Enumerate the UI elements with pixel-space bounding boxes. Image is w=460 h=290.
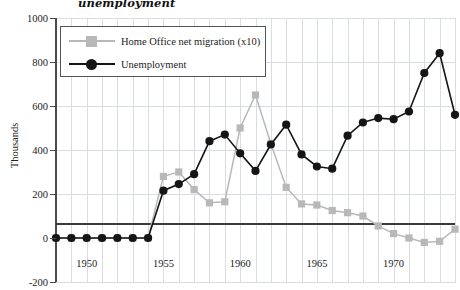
y-axis-tick-label: 1000 (27, 13, 48, 24)
square-marker-icon (86, 36, 97, 47)
data-point-circle (420, 69, 428, 77)
data-point-circle (405, 107, 413, 115)
data-point-circle (313, 162, 321, 170)
data-point-circle (190, 170, 198, 178)
data-point-circle (328, 165, 336, 173)
circle-marker-icon (86, 59, 97, 70)
data-point-circle (144, 234, 152, 242)
data-point-square (313, 201, 320, 208)
data-point-square (221, 198, 228, 205)
y-axis-tick-label: 600 (32, 101, 48, 112)
data-point-circle (221, 131, 229, 139)
y-axis-tick-label: 400 (32, 145, 48, 156)
data-point-circle (374, 114, 382, 122)
data-point-square (375, 222, 382, 229)
legend-label-unemployment: Unemployment (121, 59, 186, 70)
y-axis-tick-mark (50, 106, 56, 107)
data-point-circle (236, 149, 244, 157)
data-point-square (237, 124, 244, 131)
data-point-circle (359, 118, 367, 126)
data-point-square (451, 226, 458, 233)
legend-label-migration: Home Office net migration (x10) (121, 36, 260, 47)
chart-container: unemployment Thousands Home Office net m… (0, 0, 460, 290)
y-axis-tick-label: 800 (32, 57, 48, 68)
x-axis-tick-label: 1955 (153, 258, 174, 269)
data-point-circle (129, 234, 137, 242)
data-point-square (206, 199, 213, 206)
data-point-circle (98, 234, 106, 242)
data-point-square (329, 207, 336, 214)
data-point-square (405, 234, 412, 241)
data-point-circle (205, 137, 213, 145)
data-point-square (298, 200, 305, 207)
legend-item-unemployment: Unemployment (61, 53, 265, 75)
y-axis-tick-mark (50, 282, 56, 283)
data-point-square (160, 173, 167, 180)
data-point-square (436, 238, 443, 245)
y-axis-tick-mark (50, 194, 56, 195)
data-point-circle (297, 150, 305, 158)
data-point-square (252, 91, 259, 98)
legend-swatch-unemployment (69, 57, 115, 71)
y-axis-tick-mark (50, 238, 56, 239)
y-axis-tick-mark (50, 150, 56, 151)
data-point-square (344, 209, 351, 216)
x-axis-tick-label: 1960 (230, 258, 251, 269)
y-axis-tick-mark (50, 62, 56, 63)
series-line (56, 53, 455, 238)
data-point-circle (113, 234, 121, 242)
data-point-square (191, 186, 198, 193)
data-point-circle (267, 140, 275, 148)
data-point-square (390, 230, 397, 237)
x-axis-tick-label: 1950 (76, 258, 97, 269)
data-point-square (359, 212, 366, 219)
data-point-circle (436, 49, 444, 57)
y-axis-tick-label: 200 (32, 189, 48, 200)
y-axis-tick-label: -200 (29, 277, 48, 288)
data-point-circle (67, 234, 75, 242)
data-point-circle (390, 115, 398, 123)
data-point-square (421, 239, 428, 246)
y-axis-tick-mark (50, 18, 56, 19)
chart-legend: Home Office net migration (x10) Unemploy… (60, 26, 266, 77)
data-point-circle (451, 111, 459, 119)
data-point-square (175, 168, 182, 175)
series-unemployment (52, 49, 459, 242)
data-point-square (283, 184, 290, 191)
x-axis-tick-label: 1970 (383, 258, 404, 269)
legend-swatch-migration (69, 34, 115, 48)
data-point-circle (175, 180, 183, 188)
legend-item-migration: Home Office net migration (x10) (61, 30, 265, 52)
data-point-circle (251, 167, 259, 175)
data-point-circle (83, 234, 91, 242)
x-axis-tick-label: 1965 (306, 258, 327, 269)
data-point-circle (343, 132, 351, 140)
y-axis-tick-label: 0 (43, 233, 48, 244)
data-point-circle (159, 187, 167, 195)
data-point-circle (282, 121, 290, 129)
